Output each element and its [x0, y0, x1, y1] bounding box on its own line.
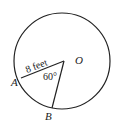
- radius-ob: [52, 61, 64, 108]
- angle-label: 60°: [43, 71, 57, 82]
- circle: [14, 13, 110, 109]
- point-label-b: B: [45, 110, 52, 120]
- center-label-o: O: [75, 54, 83, 66]
- point-label-a: A: [10, 76, 18, 88]
- circle-diagram: 8 feet 60° O A B: [0, 0, 116, 120]
